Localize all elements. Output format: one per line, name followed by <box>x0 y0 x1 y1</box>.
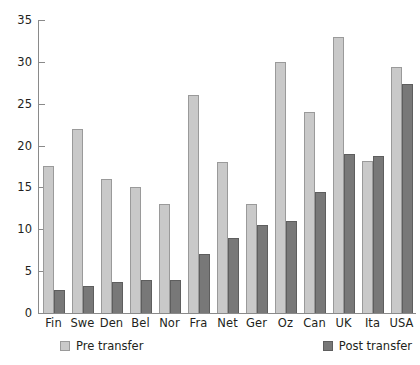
bar-post-transfer <box>286 221 297 313</box>
bar-pre-transfer <box>304 112 315 313</box>
bar-group <box>184 20 213 313</box>
bar-pre-transfer <box>159 204 170 313</box>
bar-post-transfer <box>141 280 152 313</box>
y-axis-tick-label: 10 <box>0 222 32 236</box>
bar-post-transfer <box>257 225 268 313</box>
bar-pre-transfer <box>275 62 286 313</box>
bar-pre-transfer <box>72 129 83 313</box>
y-axis-tick-label: 0 <box>0 306 32 320</box>
bar-pre-transfer <box>43 166 54 313</box>
bar-post-transfer <box>402 84 413 313</box>
legend-label-post-transfer: Post transfer <box>339 339 412 353</box>
bar-post-transfer <box>228 238 239 313</box>
y-axis-tick-label: 20 <box>0 139 32 153</box>
y-axis-tick-label: 15 <box>0 180 32 194</box>
bar-chart: 05101520253035 FinSweDenBelNorFraNetGerO… <box>0 0 420 365</box>
bar-pre-transfer <box>188 95 199 313</box>
x-axis-tick-label: UK <box>329 316 358 330</box>
bar-pre-transfer <box>333 37 344 313</box>
x-axis-tick-labels: FinSweDenBelNorFraNetGerOzCanUKItaUSA <box>39 316 416 330</box>
x-axis-tick-label: Nor <box>155 316 184 330</box>
bar-group <box>155 20 184 313</box>
x-axis-tick-label: Ita <box>358 316 387 330</box>
bar-pre-transfer <box>246 204 257 313</box>
bar-group <box>358 20 387 313</box>
bar-pre-transfer <box>362 161 373 313</box>
legend-item-post-transfer: Post transfer <box>323 339 412 353</box>
bar-group <box>126 20 155 313</box>
legend-swatch-pre-transfer <box>60 341 70 351</box>
x-axis-tick-label: Fin <box>39 316 68 330</box>
bar-pre-transfer <box>391 67 402 313</box>
x-axis-tick-label: Ger <box>242 316 271 330</box>
bar-group <box>97 20 126 313</box>
bar-pre-transfer <box>130 187 141 313</box>
legend-item-pre-transfer: Pre transfer <box>60 339 143 353</box>
bar-post-transfer <box>199 254 210 313</box>
bar-post-transfer <box>373 156 384 313</box>
x-axis-tick-label: Net <box>213 316 242 330</box>
y-axis-tick-label: 5 <box>0 264 32 278</box>
legend-swatch-post-transfer <box>323 341 333 351</box>
y-axis-tick-label: 25 <box>0 97 32 111</box>
y-axis-tick-label: 35 <box>0 13 32 27</box>
bar-post-transfer <box>112 282 123 313</box>
bar-groups <box>39 20 416 313</box>
legend-label-pre-transfer: Pre transfer <box>76 339 143 353</box>
x-axis-tick-label: Oz <box>271 316 300 330</box>
x-axis-tick-label: Can <box>300 316 329 330</box>
bar-group <box>39 20 68 313</box>
bar-group <box>387 20 416 313</box>
bar-pre-transfer <box>217 162 228 313</box>
bar-post-transfer <box>54 290 65 313</box>
x-axis-tick-label: Fra <box>184 316 213 330</box>
x-axis-tick-label: Bel <box>126 316 155 330</box>
bar-post-transfer <box>344 154 355 313</box>
bar-group <box>300 20 329 313</box>
bar-group <box>271 20 300 313</box>
bar-post-transfer <box>315 192 326 313</box>
bar-group <box>213 20 242 313</box>
y-axis-tick-label: 30 <box>0 55 32 69</box>
bar-pre-transfer <box>101 179 112 313</box>
x-axis-tick-label: USA <box>387 316 416 330</box>
x-axis-tick-label: Swe <box>68 316 97 330</box>
bar-group <box>329 20 358 313</box>
bar-group <box>242 20 271 313</box>
chart-legend: Pre transfer Post transfer <box>38 339 416 353</box>
bar-group <box>68 20 97 313</box>
x-axis-tick-label: Den <box>97 316 126 330</box>
x-axis-line <box>38 313 416 314</box>
bar-post-transfer <box>83 286 94 313</box>
bar-post-transfer <box>170 280 181 313</box>
